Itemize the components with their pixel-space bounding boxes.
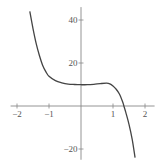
axes: [11, 7, 155, 160]
x-tick-label: 1: [111, 109, 116, 119]
y-tick-label: −20: [63, 144, 78, 154]
x-tick-label: −1: [44, 109, 54, 119]
chart: −2−1124020−20: [0, 0, 159, 167]
x-tick-label: −2: [12, 109, 22, 119]
function-curve: [30, 11, 135, 157]
x-tick-label: 2: [143, 109, 148, 119]
y-tick-label: 40: [69, 15, 79, 25]
curves: [30, 11, 135, 157]
y-tick-label: 20: [69, 58, 79, 68]
